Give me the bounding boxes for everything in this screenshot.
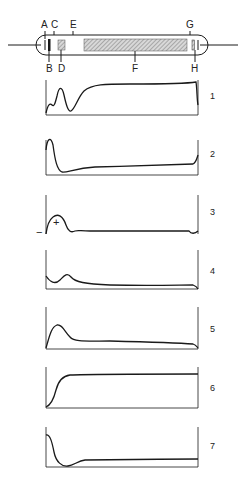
- plot-7-number: 7: [210, 442, 215, 451]
- cathode-glow-B: [48, 39, 51, 51]
- plot-3: [46, 195, 198, 234]
- label-H: H: [191, 64, 198, 74]
- anode-glow-G: [192, 40, 195, 50]
- label-C: C: [51, 20, 58, 30]
- plot-2: [46, 139, 198, 175]
- plot-4: [46, 250, 198, 289]
- plot-5: [46, 307, 198, 349]
- discharge-tube-diagram: [0, 0, 241, 490]
- label-E: E: [70, 20, 77, 30]
- label-F: F: [132, 64, 138, 74]
- label-D: D: [58, 64, 65, 74]
- label-A: A: [41, 20, 48, 30]
- plot-5-number: 5: [210, 325, 215, 334]
- positive-column-F: [84, 39, 187, 51]
- plot-6: [46, 367, 198, 408]
- negative-glow-D: [58, 40, 65, 50]
- plot-1-number: 1: [210, 92, 215, 101]
- plot-6-number: 6: [210, 384, 215, 393]
- plot-7: [46, 427, 198, 467]
- plot-3-minus-sign: −: [36, 227, 42, 238]
- label-G: G: [186, 20, 194, 30]
- plot-4-number: 4: [210, 267, 215, 276]
- gas-discharge-tube: [8, 31, 238, 62]
- plot-1: [46, 80, 198, 115]
- plot-3-number: 3: [210, 208, 215, 217]
- label-B: B: [46, 64, 53, 74]
- plot-2-number: 2: [210, 150, 215, 159]
- plot-3-plus-sign: +: [53, 217, 59, 228]
